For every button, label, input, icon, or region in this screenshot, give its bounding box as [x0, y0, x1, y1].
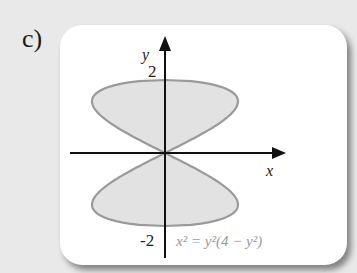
y-tick-neg2: -2	[140, 231, 154, 250]
x-axis-label: x	[265, 162, 273, 179]
equation-label: x² = y²(4 − y²)	[175, 233, 262, 250]
region-plot: y 2 x -2 x² = y²(4 − y²)	[0, 0, 357, 273]
y-axis-arrow-icon	[159, 36, 171, 51]
x-axis-arrow-icon	[272, 147, 286, 159]
y-tick-2: 2	[148, 62, 157, 81]
